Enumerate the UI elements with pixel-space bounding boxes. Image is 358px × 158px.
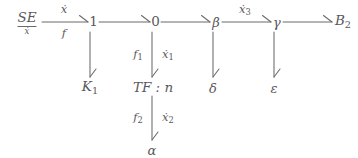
halfarrow-gamma-to-b2 [324,16,333,23]
bond-label-zero-to-tf-flow: f1 [133,49,143,61]
halfarrow-zero-to-beta [202,16,211,23]
halfarrow-beta-to-delta [213,69,219,77]
node-b2: B2 [335,14,351,29]
node-b2-subscript: 2 [345,19,351,30]
halfarrow-zero-to-tf [152,69,158,77]
bond-label-tf-to-alpha-flow-sub: 2 [138,115,143,125]
halfarrow-gamma-to-epsilon [274,69,280,77]
bond-label-tf-to-alpha-effort: ẋ2 [162,112,174,124]
bond-graph-figure: SE ẋ 1 0 β γ B2 K1 TF : n δ ε α ẋ f ẋ3 f… [0,0,358,158]
halfarrow-tf-to-alpha [152,132,158,140]
bond-graph-edges [0,0,358,158]
node-junction-one: 1 [89,15,98,29]
node-delta: δ [209,82,217,95]
node-transformer: TF : n [133,81,173,95]
node-gamma: γ [273,16,281,29]
bond-label-tf-to-alpha-flow: f2 [133,112,143,124]
halfarrow-one-to-k1 [90,69,96,77]
halfarrow-beta-to-gamma [263,16,272,23]
node-junction-zero: 0 [151,15,160,29]
node-k1: K1 [82,80,98,95]
node-source-effort-subscript: ẋ [17,27,36,36]
bond-label-se-to-one-flow: f [62,28,66,40]
node-beta: β [212,16,220,29]
node-k1-label: K [82,78,92,94]
bond-label-zero-to-tf-effort-sub: 1 [169,52,174,62]
node-source-effort-label: SE [17,11,36,27]
halfarrow-one-to-zero [142,16,151,23]
node-b2-label: B [335,12,345,28]
bond-label-beta-to-gamma-sub: 3 [246,7,251,17]
node-source-effort: SE ẋ [17,11,36,35]
bond-label-tf-to-alpha-effort-sub: 2 [169,115,174,125]
bond-label-zero-to-tf-effort: ẋ1 [162,49,174,61]
bond-label-zero-to-tf-flow-sub: 1 [138,52,143,62]
bond-label-se-to-one-effort: ẋ [61,4,68,16]
node-k1-subscript: 1 [92,85,98,96]
bond-label-beta-to-gamma: ẋ3 [239,4,251,16]
node-alpha: α [148,144,157,157]
halfarrow-se-to-one [80,16,89,23]
node-epsilon: ε [271,82,278,95]
